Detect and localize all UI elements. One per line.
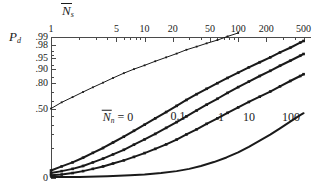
data-point-10 — [248, 101, 251, 104]
data-point-1 — [123, 149, 126, 152]
data-point-1 — [165, 127, 168, 130]
data-point-1 — [133, 143, 136, 146]
data-point-0 — [123, 72, 125, 74]
data-point-1 — [248, 80, 251, 83]
data-point-0 — [112, 77, 114, 79]
data-point-1 — [258, 75, 261, 78]
data-point-0 — [102, 82, 104, 84]
data-point-1 — [71, 168, 74, 171]
y-tick-label-.95: .95 — [36, 53, 49, 63]
data-point-0.1 — [92, 152, 95, 155]
curve-label-value-0: = 0 — [114, 110, 133, 124]
data-point-1 — [226, 92, 229, 95]
data-point-10 — [154, 148, 157, 151]
data-point-1 — [102, 157, 105, 160]
data-point-0.1 — [102, 147, 105, 150]
data-point-0.1 — [175, 105, 178, 108]
data-point-1 — [154, 133, 157, 136]
data-point-0.1 — [269, 56, 272, 59]
y-tick-0 — [51, 178, 56, 179]
data-point-0.1 — [154, 117, 157, 120]
data-point-0 — [186, 49, 188, 51]
curve-label-10: 10 — [243, 111, 255, 123]
data-point-10 — [71, 172, 74, 175]
x-tick-label-500: 500 — [296, 24, 311, 34]
x-axis-title-symbol: N — [62, 3, 71, 17]
data-point-0.1 — [143, 123, 146, 126]
data-point-1 — [289, 59, 292, 62]
data-point-10 — [226, 112, 229, 115]
detection-probability-chart: Ns Pd 15102050100200500 0.50.80.90.95.98… — [0, 0, 319, 189]
data-point-0.1 — [112, 141, 115, 144]
data-point-1 — [195, 109, 198, 112]
data-point-0 — [196, 46, 198, 48]
data-point-10 — [143, 152, 146, 155]
data-point-1 — [82, 165, 85, 168]
y-axis-title-subscript: d — [17, 36, 21, 45]
data-point-0 — [165, 56, 167, 58]
data-point-10 — [299, 75, 302, 78]
data-point-0 — [50, 108, 52, 110]
data-point-0 — [217, 39, 219, 41]
data-point-10 — [165, 143, 168, 146]
data-point-1 — [185, 115, 188, 118]
data-point-0 — [154, 60, 156, 62]
data-point-0.1 — [195, 93, 198, 96]
data-point-10 — [133, 156, 136, 159]
data-point-0 — [237, 32, 239, 34]
data-point-0.1 — [185, 99, 188, 102]
data-point-0 — [72, 96, 74, 98]
data-point-10 — [60, 173, 63, 176]
data-point-10 — [175, 138, 178, 141]
data-point-1 — [279, 64, 282, 67]
data-point-0.1 — [226, 77, 229, 80]
data-point-0 — [176, 53, 178, 55]
curve-0 — [51, 33, 238, 109]
data-point-10 — [123, 159, 126, 162]
data-point-0.1 — [71, 161, 74, 164]
data-point-0.1 — [50, 169, 53, 172]
data-point-0.1 — [237, 71, 240, 74]
y-tick-label-.99: .99 — [36, 32, 49, 42]
data-point-0 — [61, 101, 63, 103]
data-point-1 — [237, 86, 240, 89]
data-point-10 — [289, 80, 292, 83]
y-tick-label-.80: .80 — [36, 78, 49, 88]
data-point-1 — [112, 153, 115, 156]
data-point-10 — [185, 133, 188, 136]
y-axis-title: Pd — [9, 30, 21, 45]
data-point-0.1 — [216, 82, 219, 85]
y-tick-label-.50: .50 — [36, 104, 49, 114]
curve-label-0: Nn = 0 — [103, 110, 134, 125]
data-point-0 — [92, 86, 94, 88]
data-point-0.1 — [165, 111, 168, 114]
x-axis-title-subscript: s — [71, 10, 74, 19]
x-tick-label-1: 1 — [49, 24, 54, 34]
data-point-10 — [237, 106, 240, 109]
x-tick-label-5: 5 — [114, 24, 119, 34]
data-point-10 — [279, 85, 282, 88]
x-tick-label-20: 20 — [168, 24, 178, 34]
data-point-0.1 — [123, 135, 126, 138]
data-point-1 — [216, 97, 219, 100]
curve-label-0.1: 0.1 — [171, 110, 186, 122]
curves-layer — [51, 37, 311, 178]
x-tick-label-10: 10 — [140, 24, 150, 34]
data-point-10 — [258, 95, 261, 98]
data-point-0.1 — [299, 41, 302, 44]
data-point-0 — [227, 36, 229, 38]
data-point-1 — [92, 161, 95, 164]
y-tick-label-.90: .90 — [36, 64, 49, 74]
noise-parameter-symbol: N — [103, 110, 111, 123]
data-point-1 — [302, 53, 305, 56]
curve-label-100: 100 — [282, 111, 300, 123]
data-point-0.1 — [205, 87, 208, 90]
data-point-0 — [206, 42, 208, 44]
data-point-1 — [143, 138, 146, 141]
plot-area: 15102050100200500 0.50.80.90.95.98.99 Nn… — [51, 37, 311, 178]
data-point-0.1 — [248, 66, 251, 69]
data-point-10 — [102, 165, 105, 168]
data-point-0.1 — [133, 129, 136, 132]
data-point-10 — [269, 90, 272, 93]
data-point-0.1 — [60, 165, 63, 168]
